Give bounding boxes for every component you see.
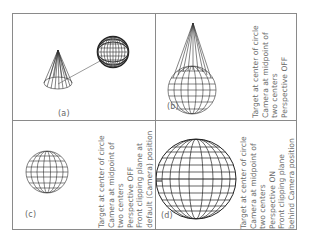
panel-d-label: (d) [161,211,173,220]
caption-line: Camera at midpoint of [107,131,117,228]
caption-line: two centers [270,25,280,118]
panel-b-caption: Target at center of circle Camera at mid… [251,25,289,118]
panel-b-label: (b) [167,102,179,111]
caption-line: behind Camera position [287,136,297,229]
caption-line: Front clipping plane at [135,131,145,228]
caption-line: Perspective OFF [126,131,136,228]
caption-line: Camera at midpoint of [261,25,271,118]
caption-line: two centers [116,131,126,228]
caption-line: default (Camera) position [145,131,155,228]
caption-line: Target at center of circle [239,136,249,229]
caption-line: Perspective OFF [280,25,290,118]
panel-d-caption: Target at center of circle Camera at mid… [239,136,297,229]
panel-d-drawing [150,139,240,219]
panel-a-label: (a) [58,109,70,118]
caption-line: Target at center of circle [251,25,261,118]
panel-c-caption: Target at center of circle Camera at mid… [97,131,155,228]
caption-line: Perspective ON [268,136,278,229]
caption-line: Target at center of circle [97,131,107,228]
panel-c-label: (c) [25,210,36,219]
caption-line: Front clipping plane [277,136,287,229]
caption-line: Camera at midpoint of [249,136,259,229]
panel-a-drawing [44,36,130,89]
caption-line: two centers [258,136,268,229]
panel-c-drawing [24,151,70,193]
panel-b-drawing [166,23,218,114]
